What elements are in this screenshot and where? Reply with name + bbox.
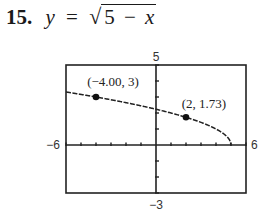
point-label-2: (2, 1.73) — [182, 96, 226, 111]
xmax-label: 6 — [251, 138, 258, 152]
point-label-1: (−4.00, 3) — [87, 74, 139, 89]
xmin-label: −6 — [46, 138, 60, 152]
point-marker-2 — [183, 114, 190, 121]
highlighted-points — [93, 94, 190, 121]
graph: 5 −3 −6 6 (−4.00, 3) (2, 1.73) — [0, 0, 267, 221]
point-marker-1 — [93, 94, 100, 101]
ymin-label: −3 — [149, 198, 163, 212]
ymax-label: 5 — [153, 50, 160, 64]
